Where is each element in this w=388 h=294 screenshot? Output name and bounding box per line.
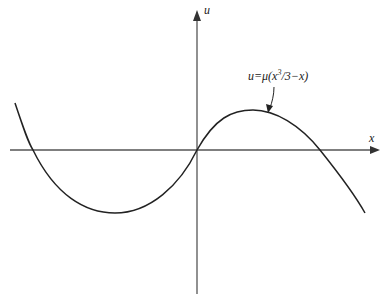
- u-axis-label: u: [204, 3, 210, 18]
- label-pointer: [270, 87, 274, 108]
- curve-label: u=μ(x3/3−x): [248, 68, 308, 84]
- cubic-curve: [15, 103, 365, 213]
- diagram: u x u=μ(x3/3−x): [0, 0, 388, 294]
- plot-svg: [0, 0, 388, 294]
- u-axis-arrow-icon: [193, 10, 201, 21]
- x-axis-arrow-icon: [370, 146, 380, 154]
- curve-label-prefix: u=μ(x: [248, 69, 277, 83]
- curve-label-suffix: /3−x): [281, 69, 308, 83]
- x-axis-label: x: [369, 131, 374, 146]
